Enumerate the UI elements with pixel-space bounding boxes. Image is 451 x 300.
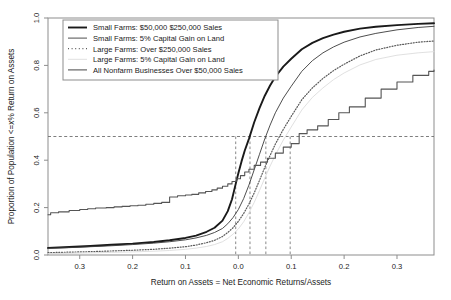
x-tick-label-0: 0.3 [74,262,85,271]
y-tick-label-5: 1.0 [32,13,41,24]
x-tick-label-3: 0.0 [233,262,244,271]
legend-label-3: Large Farms: 5% Capital Gain on Land [93,55,225,64]
legend-label-2: Large Farms: Over $250,000 Sales [93,45,212,54]
chart-svg: 0.30.20.10.00.10.20.30.00.20.40.60.81.0R… [0,0,451,300]
chart-canvas: 0.30.20.10.00.10.20.30.00.20.40.60.81.0R… [0,0,451,300]
reference-lines [48,137,434,256]
legend-label-0: Small Farms: $50,000 $250,000 Sales [93,23,222,32]
legend-label-1: Small Farms: 5% Capital Gain on Land [93,34,224,43]
x-axis-label: Return on Assets = Net Economic Returns/… [151,278,331,287]
series-path-4 [48,70,434,215]
x-tick-label-2: 0.1 [180,262,191,271]
y-axis-label: Proportion of Population <=x% Return on … [7,49,16,225]
chart-legend: Small Farms: $50,000 $250,000 SalesSmall… [63,20,278,80]
x-tick-label-5: 0.2 [339,262,350,271]
x-tick-label-1: 0.2 [127,262,138,271]
x-tick-label-6: 0.3 [392,262,403,271]
series-path-3 [48,52,434,254]
y-tick-label-1: 0.2 [32,202,41,213]
y-tick-label-3: 0.6 [32,108,41,119]
y-tick-label-0: 0.0 [32,250,41,261]
legend-label-4: All Nonfarm Businesses Over $50,000 Sale… [93,66,243,75]
x-tick-label-4: 0.1 [286,262,297,271]
y-tick-label-2: 0.4 [32,155,41,166]
y-tick-label-4: 0.8 [32,60,41,71]
